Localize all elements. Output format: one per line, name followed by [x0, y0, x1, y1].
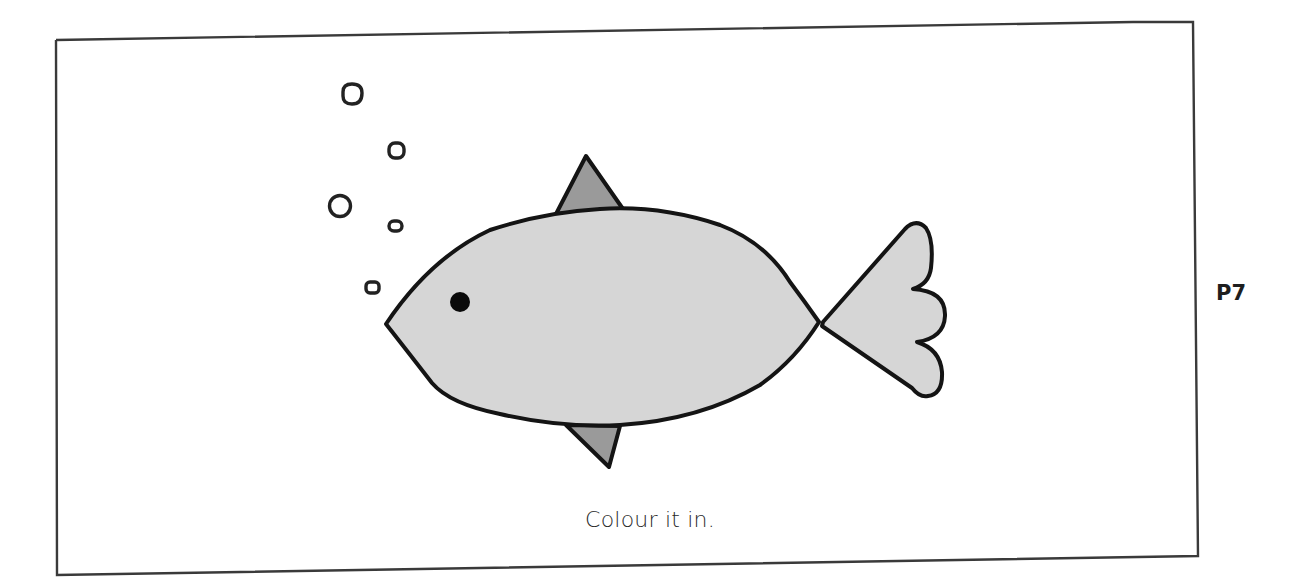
worksheet-frame: [0, 0, 1305, 585]
bubble-icon: [366, 282, 379, 293]
worksheet-page: Colour it in. P7: [0, 0, 1305, 585]
ventral-fin: [566, 425, 620, 467]
fish-eye: [450, 292, 470, 312]
fish-body: [386, 208, 819, 425]
bubble-icon: [389, 143, 404, 158]
page-number-label: P7: [1216, 281, 1246, 305]
instruction-text: Colour it in.: [520, 507, 780, 532]
bubble-icon: [343, 84, 362, 104]
bubble-icon: [330, 196, 351, 217]
fish-illustration: [386, 156, 945, 467]
tail-fin: [822, 223, 945, 396]
dorsal-fin: [556, 156, 623, 214]
bubbles: [330, 84, 405, 293]
bubble-icon: [389, 221, 402, 231]
